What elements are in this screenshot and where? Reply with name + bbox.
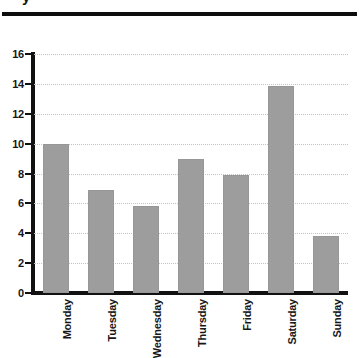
bar-sunday[interactable] bbox=[313, 236, 339, 294]
clipped-header-strip: y bbox=[0, 0, 359, 11]
y-axis-tick-label: 0 bbox=[0, 287, 24, 299]
x-axis-tick-label-sunday: Sunday bbox=[331, 299, 343, 338]
bar-wednesday[interactable] bbox=[133, 206, 159, 293]
x-axis-tick-label-tuesday: Tuesday bbox=[106, 299, 118, 341]
y-axis-tick-mark bbox=[25, 53, 31, 55]
plot-area bbox=[34, 54, 348, 293]
clipped-header-text: y bbox=[22, 0, 30, 5]
y-axis-tick-label: 8 bbox=[0, 168, 24, 180]
top-horizontal-rule bbox=[2, 12, 357, 16]
y-axis-tick-label: 2 bbox=[0, 257, 24, 269]
y-axis-tick-label: 10 bbox=[0, 138, 24, 150]
y-axis-tick-mark bbox=[25, 292, 31, 294]
bar-monday[interactable] bbox=[43, 144, 69, 293]
y-axis-tick-mark bbox=[25, 232, 31, 234]
bar-thursday[interactable] bbox=[178, 159, 204, 293]
x-axis-tick-label-friday: Friday bbox=[241, 299, 253, 331]
y-axis-tick-mark bbox=[25, 113, 31, 115]
x-axis-tick-label-monday: Monday bbox=[61, 299, 73, 339]
y-axis-tick-label: 14 bbox=[0, 78, 24, 90]
y-axis-tick-label: 12 bbox=[0, 108, 24, 120]
x-axis-tick-label-wednesday: Wednesday bbox=[151, 299, 163, 358]
bar-tuesday[interactable] bbox=[88, 190, 114, 293]
bar-friday[interactable] bbox=[223, 175, 249, 293]
y-axis-tick-mark bbox=[25, 173, 31, 175]
y-axis-tick-label: 4 bbox=[0, 227, 24, 239]
y-axis-tick-mark bbox=[25, 262, 31, 264]
y-axis-tick-mark bbox=[25, 143, 31, 145]
y-axis-tick-label: 6 bbox=[0, 197, 24, 209]
bar-saturday[interactable] bbox=[268, 86, 294, 293]
y-axis-tick-mark bbox=[25, 202, 31, 204]
x-axis-tick-label-thursday: Thursday bbox=[196, 299, 208, 347]
y-axis-tick-mark bbox=[25, 83, 31, 85]
bar-chart: 0246810121416 MondayTuesdayWednesdayThur… bbox=[0, 22, 359, 347]
y-axis-tick-label: 16 bbox=[0, 48, 24, 60]
x-axis-tick-label-saturday: Saturday bbox=[286, 299, 298, 344]
